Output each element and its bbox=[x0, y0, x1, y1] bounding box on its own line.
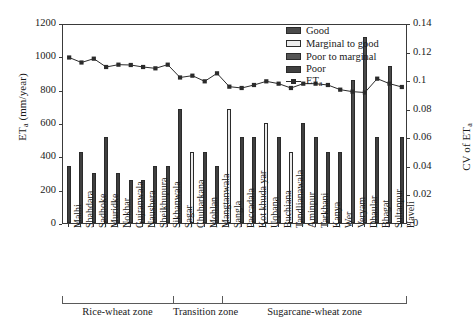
eta-point-buchiana bbox=[277, 82, 281, 86]
y-axis-right-tick-0: 0 bbox=[413, 217, 447, 228]
legend-swatch-poor-icon bbox=[286, 66, 301, 73]
legend-swatch-poor-to-marginal-icon bbox=[286, 53, 301, 60]
x-axis-tickmark bbox=[204, 224, 205, 227]
zone-divider-tick bbox=[222, 296, 223, 303]
y-axis-right-tick-0.1: 0.1 bbox=[413, 74, 447, 85]
x-axis-label-uqbana: Uqbana bbox=[269, 197, 280, 228]
x-axis-label-tarkhani: Tarkhani bbox=[319, 193, 330, 228]
x-axis-tickmark bbox=[191, 224, 192, 227]
y-axis-left-tickmark bbox=[59, 91, 62, 92]
y-axis-left-tick-200: 200 bbox=[22, 184, 56, 195]
zone-divider-tick bbox=[62, 296, 63, 303]
eta-point-dhaular bbox=[363, 90, 367, 94]
chart-legend: Good Marginal to good Poor to marginal P… bbox=[286, 25, 379, 89]
y-axis-right-tick-0.04: 0.04 bbox=[413, 160, 447, 171]
x-axis-label-bhagat: Bhagat bbox=[380, 200, 391, 228]
x-axis-label-veryam: Veryam bbox=[356, 197, 367, 228]
x-axis-tickmark bbox=[93, 224, 94, 227]
x-axis-tickmark bbox=[216, 224, 217, 227]
legend-label-eta: ETa bbox=[306, 75, 322, 90]
eta-point-sagar bbox=[178, 75, 182, 79]
zone-label-transition-zone: Transition zone bbox=[173, 306, 222, 317]
eta-point-mohlan bbox=[203, 79, 207, 83]
x-axis-label-sagar: Sagar bbox=[183, 205, 194, 228]
legend-label-poor: Poor bbox=[306, 63, 326, 75]
eta-point-sheikhupura bbox=[153, 66, 157, 70]
legend-item-eta: ETa bbox=[286, 76, 379, 88]
x-axis-tickmark bbox=[253, 224, 254, 227]
eta-point-uqbana bbox=[264, 79, 268, 83]
eta-point-veryam bbox=[350, 90, 354, 94]
legend-swatch-marginal-to-good-icon bbox=[286, 40, 301, 47]
legend-label-eta-sub: a bbox=[319, 79, 323, 88]
y-axis-left-tick-0: 0 bbox=[22, 217, 56, 228]
eta-point-kot-khuda-yar bbox=[252, 83, 256, 87]
x-axis-label-malhi: Malhi bbox=[72, 204, 83, 228]
eta-point-sangla bbox=[227, 85, 231, 89]
y-axis-right-title: CV of ETa bbox=[460, 92, 474, 202]
y-axis-left-title-main: ET bbox=[16, 127, 28, 141]
x-axis-label-nokhar: Nokhar bbox=[121, 198, 132, 228]
eta-point-muridke bbox=[104, 65, 108, 69]
chart-figure: ETa (mm/year) CV of ETa Good Marginal to… bbox=[0, 0, 475, 336]
y-axis-left-tickmark bbox=[59, 191, 62, 192]
x-axis-label-sangla: Sangla bbox=[232, 201, 243, 228]
zone-divider-tick bbox=[173, 296, 174, 303]
x-axis-label-mangtanwala: Mangtanwala bbox=[220, 174, 231, 228]
x-axis-tickmark bbox=[68, 224, 69, 227]
y-axis-right-tickmark bbox=[407, 138, 410, 139]
y-axis-left-tick-800: 800 bbox=[22, 84, 56, 95]
eta-point-haveli bbox=[400, 85, 404, 89]
y-axis-right-tick-0.12: 0.12 bbox=[413, 46, 447, 57]
x-axis-label-paccadala: Paccadala bbox=[245, 188, 256, 228]
legend-line-marker-icon bbox=[286, 78, 301, 85]
x-axis-tickmark bbox=[339, 224, 340, 227]
x-axis-tickmark bbox=[376, 224, 377, 227]
y-axis-left-title-units: (mm/year) bbox=[16, 73, 28, 123]
x-axis-tickmark bbox=[327, 224, 328, 227]
eta-point-chuharkana bbox=[190, 74, 194, 78]
x-axis-label-sadhoke: Sadhoke bbox=[97, 194, 108, 228]
x-axis-tickmark bbox=[401, 224, 402, 227]
y-axis-right-tick-0.14: 0.14 bbox=[413, 17, 447, 28]
x-axis-label-buchiana: Buchiana bbox=[282, 190, 293, 228]
legend-label-eta-main: ET bbox=[306, 75, 319, 86]
x-axis-tickmark bbox=[142, 224, 143, 227]
x-axis-label-kot-khuda-yar: Kot khuda yar bbox=[257, 171, 268, 228]
y-axis-left-tick-1000: 1000 bbox=[22, 50, 56, 61]
eta-point-naushera bbox=[141, 65, 145, 69]
x-axis-tickmark bbox=[352, 224, 353, 227]
zone-divider-tick bbox=[406, 296, 407, 303]
y-axis-left-tick-600: 600 bbox=[22, 117, 56, 128]
legend-item-poor-to-marginal: Poor to marginal bbox=[286, 51, 379, 63]
y-axis-right-title-sub: a bbox=[465, 123, 474, 127]
zone-axis-line bbox=[62, 303, 407, 304]
y-axis-right-tick-0.08: 0.08 bbox=[413, 103, 447, 114]
y-axis-left-tickmark bbox=[59, 124, 62, 125]
y-axis-right-tickmark bbox=[407, 167, 410, 168]
eta-point-nokhar bbox=[116, 63, 120, 67]
zone-label-rice-wheat-zone: Rice-wheat zone bbox=[62, 306, 173, 317]
x-axis-label-haveli: Haveli bbox=[405, 201, 416, 228]
legend-label-marginal-to-good: Marginal to good bbox=[306, 38, 379, 50]
x-axis-tickmark bbox=[130, 224, 131, 227]
legend-item-marginal-to-good: Marginal to good bbox=[286, 38, 379, 50]
eta-point-sikhanwala bbox=[166, 63, 170, 67]
x-axis-tickmark bbox=[167, 224, 168, 227]
y-axis-left-tickmark bbox=[59, 57, 62, 58]
x-axis-tickmark bbox=[315, 224, 316, 227]
y-axis-right-title-main: CV of ET bbox=[460, 127, 472, 171]
y-axis-left-tickmark bbox=[59, 224, 62, 225]
x-axis-label-sultanpur: Sultanpur bbox=[393, 189, 404, 228]
legend-label-good: Good bbox=[306, 25, 329, 37]
eta-point-shahdara bbox=[79, 60, 83, 64]
eta-point-paccadala bbox=[240, 86, 244, 90]
x-axis-label-muridke: Muridke bbox=[109, 194, 120, 228]
y-axis-right-tickmark bbox=[407, 81, 410, 82]
y-axis-right-tickmark bbox=[407, 53, 410, 54]
y-axis-right-tickmark bbox=[407, 195, 410, 196]
y-axis-right-tickmark bbox=[407, 110, 410, 111]
legend-swatch-good-icon bbox=[286, 27, 301, 34]
y-axis-left-tickmark bbox=[59, 24, 62, 25]
y-axis-right-tick-0.02: 0.02 bbox=[413, 188, 447, 199]
